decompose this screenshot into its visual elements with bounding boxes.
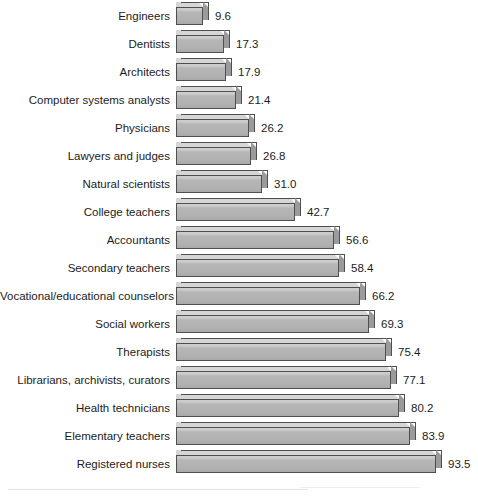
bar-side-edge — [231, 58, 232, 76]
scan-artifact-line-secondary — [300, 487, 420, 488]
bar — [176, 2, 208, 25]
bar-front-face — [176, 399, 399, 417]
bar-top-edge — [181, 114, 254, 115]
bar-side-edge — [241, 86, 242, 104]
bar-front-face — [176, 203, 295, 221]
bar-row: Health technicians80.2 — [0, 394, 478, 422]
category-label: Librarians, archivists, curators — [0, 374, 170, 387]
bar — [176, 310, 374, 333]
category-label: Vocational/educational counselors — [0, 290, 170, 303]
bar-front-face — [176, 63, 226, 81]
category-label: Social workers — [0, 318, 170, 331]
bar-value-label: 93.5 — [448, 458, 470, 471]
bar-row: College teachers42.7 — [0, 198, 478, 226]
bar-side-edge — [208, 2, 209, 20]
bar-side-edge — [267, 170, 268, 188]
bar — [176, 58, 231, 81]
bar-side-edge — [396, 366, 397, 384]
bar-row: Librarians, archivists, curators77.1 — [0, 366, 478, 394]
bar-value-label: 9.6 — [215, 10, 231, 23]
bar-top-edge — [181, 170, 267, 171]
bar-side-edge — [391, 338, 392, 356]
bar-value-label: 31.0 — [274, 178, 296, 191]
bar-top-edge — [181, 282, 365, 283]
bar-side-edge — [441, 450, 442, 468]
bar-top-edge — [181, 198, 300, 199]
bar-value-label: 26.2 — [261, 122, 283, 135]
category-label: Engineers — [0, 10, 170, 23]
category-label: Health technicians — [0, 402, 170, 415]
bar-row: Natural scientists31.0 — [0, 170, 478, 198]
bar-top-edge — [181, 366, 396, 367]
bar-row: Accountants56.6 — [0, 226, 478, 254]
bar-top-edge — [181, 254, 344, 255]
bar-row: Lawyers and judges26.8 — [0, 142, 478, 170]
bar-side-edge — [300, 198, 301, 216]
bar — [176, 142, 256, 165]
bar-front-face — [176, 455, 436, 473]
bar-value-label: 75.4 — [398, 346, 420, 359]
category-label: Therapists — [0, 346, 170, 359]
category-label: Accountants — [0, 234, 170, 247]
bar-value-label: 26.8 — [263, 150, 285, 163]
bar — [176, 226, 339, 249]
bar-top-edge — [181, 310, 374, 311]
bar-value-label: 21.4 — [248, 94, 270, 107]
category-label: Architects — [0, 66, 170, 79]
bar-row: Vocational/educational counselors66.2 — [0, 282, 478, 310]
bar-front-face — [176, 147, 251, 165]
bar-value-label: 58.4 — [351, 262, 373, 275]
bar — [176, 282, 365, 305]
bar-row: Architects17.9 — [0, 58, 478, 86]
bar-value-label: 56.6 — [346, 234, 368, 247]
bar — [176, 394, 404, 417]
bar-row: Dentists17.3 — [0, 30, 478, 58]
category-label: College teachers — [0, 206, 170, 219]
bar-front-face — [176, 35, 224, 53]
bar-front-face — [176, 259, 339, 277]
bar-chart: Engineers9.6Dentists17.3Architects17.9Co… — [0, 0, 478, 496]
bar — [176, 338, 391, 361]
category-label: Secondary teachers — [0, 262, 170, 275]
bar-value-label: 66.2 — [372, 290, 394, 303]
bar-row: Physicians26.2 — [0, 114, 478, 142]
category-label: Physicians — [0, 122, 170, 135]
bar-value-label: 17.3 — [236, 38, 258, 51]
category-label: Computer systems analysts — [0, 94, 170, 107]
bar-value-label: 17.9 — [238, 66, 260, 79]
bar-side-edge — [415, 422, 416, 440]
bar-front-face — [176, 343, 386, 361]
category-label: Elementary teachers — [0, 430, 170, 443]
bar-front-face — [176, 287, 360, 305]
bar-top-edge — [181, 30, 229, 31]
bar-front-face — [176, 7, 203, 25]
bar-side-edge — [256, 142, 257, 160]
bar-front-face — [176, 231, 334, 249]
bar-side-edge — [254, 114, 255, 132]
bar-top-edge — [181, 422, 415, 423]
scan-artifact-line — [8, 489, 308, 490]
bar-front-face — [176, 119, 249, 137]
bar-front-face — [176, 91, 236, 109]
bar-side-edge — [344, 254, 345, 272]
bar-row: Registered nurses93.5 — [0, 450, 478, 478]
bar-row: Elementary teachers83.9 — [0, 422, 478, 450]
category-label: Registered nurses — [0, 458, 170, 471]
bar — [176, 366, 396, 389]
bar — [176, 450, 441, 473]
bar — [176, 422, 415, 445]
bar-side-edge — [404, 394, 405, 412]
bar-value-label: 42.7 — [307, 206, 329, 219]
bar — [176, 254, 344, 277]
bar — [176, 30, 229, 53]
bar — [176, 198, 300, 221]
bar-value-label: 69.3 — [381, 318, 403, 331]
category-label: Natural scientists — [0, 178, 170, 191]
bar-top-edge — [181, 142, 256, 143]
bar-top-edge — [181, 226, 339, 227]
bar-row: Engineers9.6 — [0, 2, 478, 30]
bar-row: Therapists75.4 — [0, 338, 478, 366]
bar-front-face — [176, 371, 391, 389]
bar-value-label: 80.2 — [411, 402, 433, 415]
bar-top-edge — [181, 450, 441, 451]
